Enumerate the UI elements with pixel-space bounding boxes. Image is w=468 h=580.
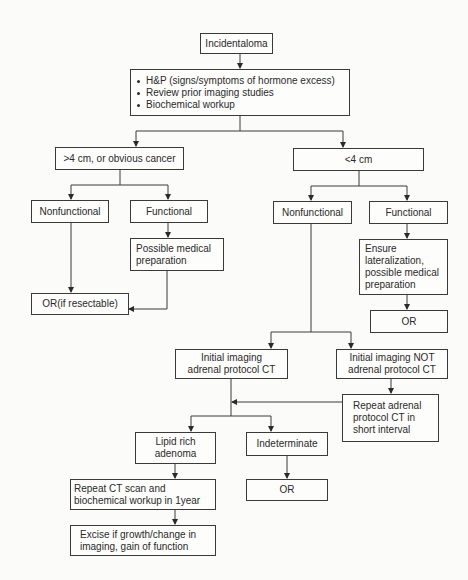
node-label: Repeat CT scan and biochemical workup in…: [74, 483, 200, 507]
workup-list: H&P (signs/symptoms of hormone excess) R…: [134, 75, 346, 111]
node-label: Functional: [146, 206, 192, 218]
workup-item: H&P (signs/symptoms of hormone excess): [146, 75, 346, 87]
node-label: Nonfunctional: [39, 206, 100, 218]
node-label: Ensure lateralization, possible medical …: [365, 243, 439, 291]
node-label: OR(if resectable): [42, 298, 118, 310]
node-large-nonfunctional: Nonfunctional: [31, 200, 109, 223]
node-label: Lipid rich adenoma: [155, 436, 197, 460]
node-label: >4 cm, or obvious cancer: [64, 153, 176, 165]
node-small-nonfunctional: Nonfunctional: [273, 201, 352, 224]
node-initial-not-adrenal-ct: Initial imaging NOT adrenal protocol CT: [336, 349, 448, 379]
node-indeterminate: Indeterminate: [246, 432, 328, 456]
node-label: Indeterminate: [256, 438, 317, 450]
node-possible-medical-preparation: Possible medical preparation: [130, 238, 224, 271]
workup-item: Biochemical workup: [146, 99, 346, 111]
node-label: Repeat adrenal protocol CT in short inte…: [353, 400, 421, 436]
node-label: Functional: [385, 207, 431, 219]
node-label: OR: [402, 316, 417, 328]
node-label: <4 cm: [345, 154, 373, 166]
node-repeat-adrenal-ct: Repeat adrenal protocol CT in short inte…: [342, 394, 439, 442]
node-or-functional: OR: [370, 310, 448, 333]
node-ensure-lateralization: Ensure lateralization, possible medical …: [359, 239, 448, 295]
node-initial-adrenal-ct: Initial imaging adrenal protocol CT: [175, 349, 288, 379]
flowchart: Incidentaloma H&P (signs/symptoms of hor…: [0, 0, 468, 580]
node-large-functional: Functional: [130, 200, 208, 223]
workup-item: Review prior imaging studies: [146, 87, 346, 99]
node-label: Incidentaloma: [205, 38, 267, 50]
node-lipid-rich-adenoma: Lipid rich adenoma: [135, 432, 216, 464]
node-label: Initial imaging NOT adrenal protocol CT: [348, 352, 436, 376]
node-or-if-resectable: OR(if resectable): [31, 293, 129, 315]
node-or-indeterminate: OR: [246, 479, 328, 501]
node-small: <4 cm: [293, 148, 424, 171]
node-label: Initial imaging adrenal protocol CT: [188, 352, 276, 376]
node-excise: Excise if growth/change in imaging, gain…: [70, 525, 216, 556]
node-label: OR: [280, 484, 295, 496]
node-label: Nonfunctional: [282, 207, 343, 219]
node-incidentaloma: Incidentaloma: [200, 33, 273, 54]
node-repeat-ct-1-year: Repeat CT scan and biochemical workup in…: [70, 479, 216, 510]
node-label: Possible medical preparation: [136, 243, 211, 267]
node-initial-workup: H&P (signs/symptoms of hormone excess) R…: [130, 69, 350, 116]
node-label: Excise if growth/change in imaging, gain…: [80, 529, 196, 553]
node-large-or-cancer: >4 cm, or obvious cancer: [55, 147, 184, 170]
node-small-functional: Functional: [369, 201, 448, 224]
